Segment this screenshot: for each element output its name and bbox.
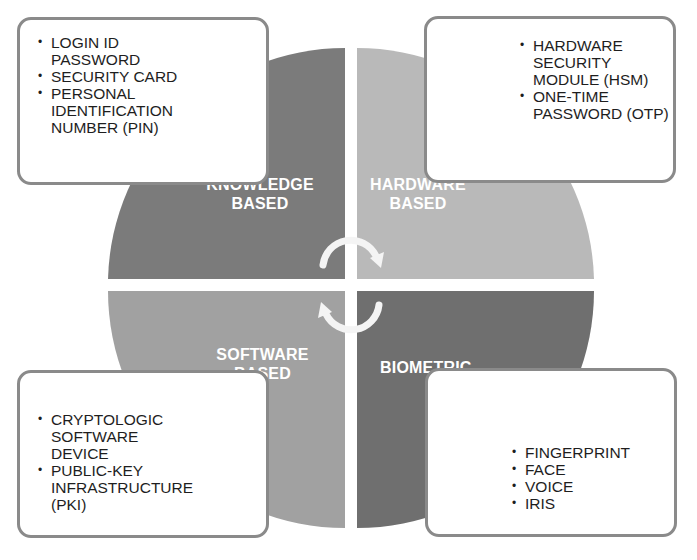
biometric-items-box: FINGERPRINT FACE VOICE IRIS: [425, 368, 677, 537]
hardware-items-list: HARDWARE SECURITY MODULE (HSM) ONE-TIME …: [519, 37, 673, 122]
list-item: ONE-TIME PASSWORD (OTP): [519, 88, 673, 122]
software-items-box: CRYPTOLOGIC SOFTWARE DEVICE PUBLIC-KEY I…: [17, 370, 269, 538]
list-item: CRYPTOLOGIC SOFTWARE DEVICE: [37, 411, 161, 462]
hardware-items-box: HARDWARE SECURITY MODULE (HSM) ONE-TIME …: [424, 16, 676, 183]
list-item: SECURITY CARD: [37, 68, 181, 85]
software-items-list: CRYPTOLOGIC SOFTWARE DEVICE PUBLIC-KEY I…: [37, 411, 186, 513]
list-item: HARDWARE SECURITY MODULE (HSM): [519, 37, 658, 88]
list-item: LOGIN ID PASSWORD: [37, 34, 161, 68]
list-item: PUBLIC-KEY INFRASTRUCTURE (PKI): [37, 462, 186, 513]
list-item: FINGERPRINT: [511, 444, 630, 461]
biometric-items-list: FINGERPRINT FACE VOICE IRIS: [511, 444, 630, 512]
knowledge-items-box: LOGIN ID PASSWORD SECURITY CARD PERSONAL…: [17, 17, 269, 185]
list-item: FACE: [511, 461, 630, 478]
list-item: PERSONAL IDENTIFICATION NUMBER (PIN): [37, 85, 181, 136]
list-item: VOICE: [511, 478, 630, 495]
list-item: IRIS: [511, 495, 630, 512]
knowledge-items-list: LOGIN ID PASSWORD SECURITY CARD PERSONAL…: [37, 34, 181, 136]
